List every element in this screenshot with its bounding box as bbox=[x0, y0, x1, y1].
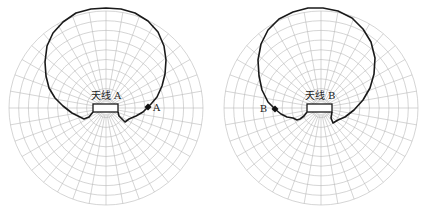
point-b-label: B bbox=[260, 103, 267, 114]
antenna-a-box bbox=[93, 104, 118, 112]
antenna-a-label: 天线 A bbox=[91, 89, 122, 101]
antenna-b-label: 天线 B bbox=[305, 89, 336, 101]
polar-plot-antenna-a: 天线 A A bbox=[9, 8, 203, 205]
polar-plot-antenna-b: 天线 B B bbox=[224, 8, 418, 205]
point-a-label: A bbox=[152, 102, 161, 113]
antenna-radiation-diagram: 天线 A A 天线 B B bbox=[0, 0, 423, 213]
antenna-b-box bbox=[307, 104, 332, 112]
